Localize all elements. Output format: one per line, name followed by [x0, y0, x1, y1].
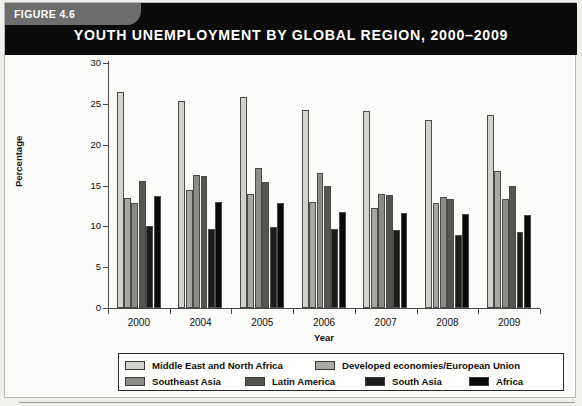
legend-label: Southeast Asia: [152, 376, 221, 387]
bar: [201, 176, 208, 308]
y-axis-title: Percentage: [13, 136, 24, 187]
x-axis-label: 2000: [104, 317, 174, 328]
y-axis-label: 25: [73, 98, 101, 109]
page-title: YOUTH UNEMPLOYMENT BY GLOBAL REGION, 200…: [5, 27, 577, 43]
bar: [425, 120, 432, 308]
bar: [309, 202, 316, 308]
bar-group: [178, 63, 222, 308]
x-axis-tick: [108, 309, 109, 314]
bar: [277, 203, 284, 308]
bar: [178, 101, 185, 308]
x-axis-tick: [293, 309, 294, 314]
y-axis-label: 10: [73, 220, 101, 231]
x-axis-tick: [540, 309, 541, 314]
bar: [154, 196, 161, 308]
legend-item[interactable]: Southeast Asia: [125, 376, 221, 387]
bar: [270, 227, 277, 308]
legend-swatch: [469, 377, 489, 386]
legend-swatch: [245, 377, 265, 386]
bar: [262, 182, 269, 308]
x-axis-tick: [478, 309, 479, 314]
legend-swatch: [315, 361, 335, 370]
x-axis-label: 2005: [227, 317, 297, 328]
legend-swatch: [365, 377, 385, 386]
y-axis-tick: [103, 63, 108, 64]
bar: [433, 203, 440, 308]
legend-item[interactable]: Middle East and North Africa: [125, 360, 283, 371]
bar: [208, 229, 215, 308]
legend-item[interactable]: South Asia: [365, 376, 442, 387]
bar-group: [425, 63, 469, 308]
bar: [331, 229, 338, 308]
y-axis-tick: [103, 267, 108, 268]
legend-swatch: [125, 361, 145, 370]
x-axis-tick: [231, 309, 232, 314]
bar: [509, 186, 516, 309]
bar: [255, 168, 262, 308]
legend-label: South Asia: [392, 376, 442, 387]
bar: [139, 181, 146, 308]
bar: [302, 110, 309, 308]
legend-item[interactable]: Africa: [469, 376, 523, 387]
x-axis-label: 2006: [289, 317, 359, 328]
bar: [502, 199, 509, 308]
chart-legend: Middle East and North AfricaDeveloped ec…: [118, 353, 564, 391]
bar: [215, 202, 222, 308]
bar: [524, 215, 531, 308]
y-axis-tick: [103, 186, 108, 187]
y-axis-tick: [103, 226, 108, 227]
y-axis-tick: [103, 104, 108, 105]
figure-card: FIGURE 4.6 YOUTH UNEMPLOYMENT BY GLOBAL …: [4, 2, 576, 398]
bar: [324, 186, 331, 309]
legend-label: Middle East and North Africa: [152, 360, 283, 371]
chart-plot-area: Percentage 051015202530 2000200420052006…: [5, 55, 577, 347]
bar: [186, 190, 193, 308]
y-axis-line: [108, 61, 109, 309]
legend-label: Developed economies/European Union: [342, 360, 520, 371]
legend-label: Latin America: [272, 376, 335, 387]
bar-group: [363, 63, 407, 308]
bar: [131, 203, 138, 308]
x-axis-title: Year: [108, 332, 540, 343]
bar-group: [240, 63, 284, 308]
x-axis-line: [108, 308, 540, 309]
bar: [193, 175, 200, 308]
x-axis-label: 2007: [351, 317, 421, 328]
x-axis-tick: [355, 309, 356, 314]
legend-item[interactable]: Latin America: [245, 376, 335, 387]
bar: [386, 195, 393, 308]
legend-label: Africa: [496, 376, 523, 387]
bar: [124, 198, 131, 308]
bar: [378, 194, 385, 308]
y-axis-label: 0: [73, 302, 101, 313]
bar: [517, 232, 524, 308]
x-axis-tick: [417, 309, 418, 314]
x-axis-label: 2004: [166, 317, 236, 328]
bar: [487, 115, 494, 308]
bar: [440, 197, 447, 308]
y-axis-label: 30: [73, 57, 101, 68]
bar: [371, 208, 378, 308]
footer-divider: [19, 402, 575, 403]
x-axis-tick: [170, 309, 171, 314]
bar-group: [487, 63, 531, 308]
y-axis-tick: [103, 145, 108, 146]
bar: [117, 92, 124, 308]
bar-group: [302, 63, 346, 308]
legend-swatch: [125, 377, 145, 386]
bar-group: [117, 63, 161, 308]
bar: [146, 226, 153, 308]
bar: [247, 194, 254, 308]
bar: [339, 212, 346, 308]
bar: [240, 97, 247, 308]
legend-row: Southeast AsiaLatin AmericaSouth AsiaAfr…: [119, 374, 565, 389]
bar: [393, 230, 400, 308]
bar: [455, 235, 462, 308]
bar: [401, 213, 408, 308]
bar: [494, 171, 501, 308]
bar: [447, 199, 454, 308]
legend-row: Middle East and North AfricaDeveloped ec…: [119, 358, 565, 373]
legend-item[interactable]: Developed economies/European Union: [315, 360, 520, 371]
y-axis-label: 20: [73, 139, 101, 150]
bar: [363, 111, 370, 308]
